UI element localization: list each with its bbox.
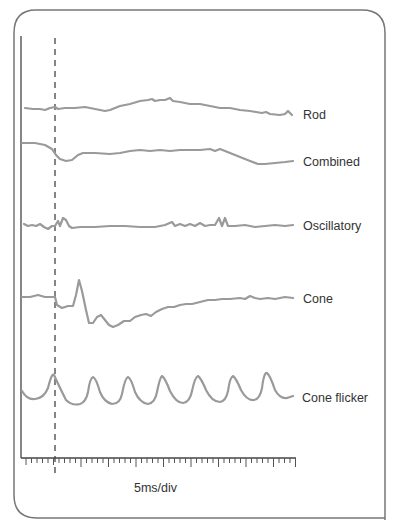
chart-figure: Rod Combined Oscillatory Cone Cone flick…	[0, 0, 399, 523]
x-axis-ticks	[26, 458, 296, 467]
combined-trace	[22, 143, 293, 164]
label-oscillatory: Oscillatory	[303, 219, 362, 233]
label-cone-flicker: Cone flicker	[302, 391, 368, 405]
label-combined: Combined	[303, 155, 360, 169]
x-axis-label: 5ms/div	[134, 481, 178, 495]
label-cone: Cone	[303, 292, 333, 306]
cone-trace	[22, 280, 293, 327]
oscillatory-trace	[24, 218, 293, 229]
cone-flicker-trace	[22, 373, 293, 405]
figure-frame	[14, 10, 384, 520]
frame-border	[14, 10, 385, 520]
label-rod: Rod	[303, 108, 326, 122]
rod-trace	[25, 98, 292, 115]
